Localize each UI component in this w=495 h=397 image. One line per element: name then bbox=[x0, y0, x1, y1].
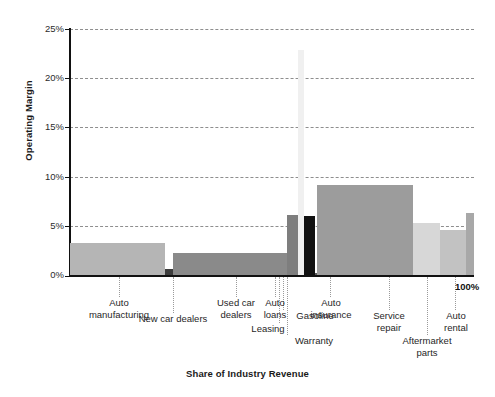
bar-service-repair bbox=[413, 223, 440, 275]
bar-gasoline bbox=[304, 216, 315, 275]
y-tick-label-0: 0% bbox=[30, 270, 64, 280]
cat-label-leasing: Leasing bbox=[245, 323, 291, 335]
y-tick-label-15: 15% bbox=[30, 122, 64, 132]
leader-aftermarket-parts bbox=[427, 277, 428, 335]
leader-auto-manufacturing bbox=[119, 277, 120, 297]
bar-auto-manufacturing bbox=[70, 243, 165, 275]
x-axis-line bbox=[69, 275, 474, 277]
leader-new-car-dealers bbox=[173, 277, 174, 313]
y-tick-label-25: 25% bbox=[30, 24, 64, 34]
plot-area bbox=[70, 28, 474, 275]
bar-auto-insurance bbox=[317, 185, 413, 275]
x-axis-title: Share of Industry Revenue bbox=[0, 368, 495, 379]
operating-margin-chart: Operating Margin 25% 20% 15% 10% 5% 0% bbox=[0, 0, 495, 397]
bar-new-car-dealers bbox=[165, 269, 174, 275]
y-tick-label-10: 10% bbox=[30, 172, 64, 182]
bar-auto-rental bbox=[466, 213, 474, 275]
cat-label-auto-rental: Auto rental bbox=[434, 310, 478, 333]
leader-auto-loans bbox=[275, 277, 276, 297]
bar-used-car-dealers bbox=[173, 253, 287, 275]
bar-aftermarket-parts bbox=[440, 230, 466, 275]
y-tick-label-5: 5% bbox=[30, 221, 64, 231]
leader-used-car-dealers bbox=[236, 277, 237, 297]
cat-label-auto-insurance: Auto insurance bbox=[300, 297, 362, 320]
leader-auto-insurance bbox=[330, 277, 331, 297]
y-axis-title: Operating Margin bbox=[23, 51, 34, 191]
cat-label-service-repair: Service repair bbox=[364, 310, 414, 333]
cat-label-aftermarket-parts: Aftermarket parts bbox=[390, 335, 464, 358]
x-axis-end-label: 100% bbox=[455, 281, 479, 292]
cat-label-warranty: Warranty bbox=[285, 335, 343, 347]
y-tick-label-20: 20% bbox=[30, 73, 64, 83]
bar-auto-loans bbox=[287, 215, 298, 275]
leader-service-repair bbox=[389, 277, 390, 310]
